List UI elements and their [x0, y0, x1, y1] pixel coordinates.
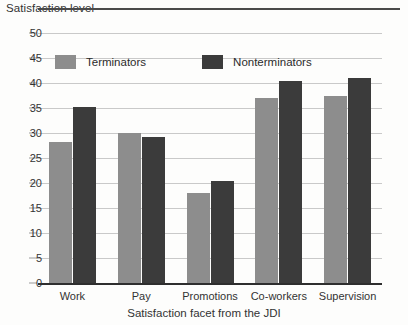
bar	[324, 96, 347, 283]
bar	[49, 142, 72, 284]
x-axis-title: Satisfaction facet from the JDI	[0, 307, 408, 319]
legend-entry: Terminators	[55, 55, 146, 69]
bar-group	[255, 33, 302, 283]
bar	[211, 181, 234, 283]
bar	[348, 78, 371, 283]
gridline	[38, 283, 382, 285]
x-axis-tick-label: Supervision	[319, 290, 376, 302]
bar	[187, 193, 210, 283]
bar-group	[49, 33, 96, 283]
y-axis-tick-label: 5	[12, 252, 42, 264]
y-axis-tick-label: 50	[12, 27, 42, 39]
bar	[118, 133, 141, 284]
plot-area: 05101520253035404550	[38, 33, 382, 283]
bar	[255, 98, 278, 283]
legend-swatch	[202, 55, 223, 69]
y-axis-tick-label: 25	[12, 152, 42, 164]
x-axis-tick-label: Pay	[132, 290, 151, 302]
bar	[73, 107, 96, 284]
legend-entry: Nonterminators	[202, 55, 312, 69]
bar	[142, 137, 165, 283]
legend-label: Terminators	[86, 56, 146, 68]
x-axis-tick-label: Co-workers	[251, 290, 307, 302]
y-axis-tick-label: 45	[12, 52, 42, 64]
y-axis-tick-label: 15	[12, 202, 42, 214]
x-axis-tick-label: Promotions	[182, 290, 238, 302]
y-axis-tick-label: 30	[12, 127, 42, 139]
y-axis-tick-label: 20	[12, 177, 42, 189]
y-axis-tick-label: 40	[12, 77, 42, 89]
legend-label: Nonterminators	[233, 56, 312, 68]
bar-group	[118, 33, 165, 283]
y-axis-tick-label: 0	[12, 277, 42, 289]
y-axis-tick-label: 35	[12, 102, 42, 114]
bar-group	[324, 33, 371, 283]
chart-top-rule	[38, 8, 400, 10]
legend-swatch	[55, 55, 76, 69]
bar	[279, 81, 302, 284]
bar-group	[187, 33, 234, 283]
x-axis-tick-label: Work	[60, 290, 85, 302]
bar-chart-figure: Satisfaction level 05101520253035404550 …	[0, 0, 408, 325]
chart-legend: TerminatorsNonterminators	[55, 55, 312, 69]
y-axis-tick-label: 10	[12, 227, 42, 239]
